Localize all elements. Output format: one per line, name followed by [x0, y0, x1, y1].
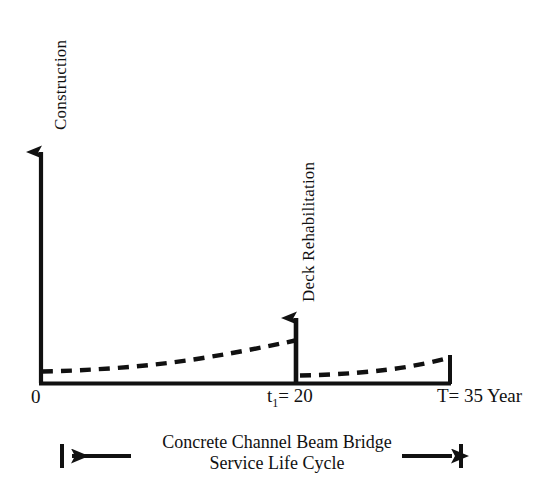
- figure-caption: Concrete Channel Beam Bridge Service Lif…: [0, 432, 554, 474]
- caption-line-1: Concrete Channel Beam Bridge: [0, 432, 554, 453]
- diagram-canvas: [0, 0, 554, 498]
- deterioration-curve-cycle-2: [300, 358, 450, 376]
- caption-line-2: Service Life Cycle: [0, 453, 554, 474]
- construction-axis-label: Construction: [52, 40, 69, 130]
- x-tick-label-t1: t1= 20: [267, 386, 313, 409]
- life-cycle-diagram: Construction Deck Rehabilitation 0 t1= 2…: [0, 0, 554, 498]
- deck-rehabilitation-label: Deck Rehabilitation: [300, 162, 317, 302]
- x-tick-label-end: T= 35 Year: [437, 386, 522, 405]
- x-tick-label-origin: 0: [31, 387, 41, 406]
- x-tick-t1-value: = 20: [278, 385, 312, 406]
- deterioration-curve-cycle-1: [42, 341, 295, 372]
